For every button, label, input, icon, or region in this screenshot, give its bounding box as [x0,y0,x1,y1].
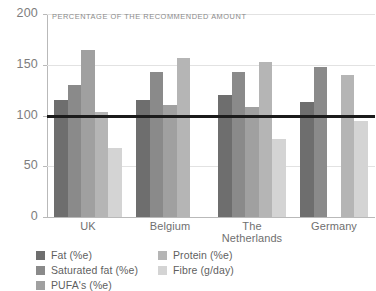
legend-label: PUFA's (%e) [51,279,112,291]
bar [54,100,68,217]
bar [81,50,95,217]
bar [341,75,355,217]
legend-swatch [158,266,167,275]
chart-legend: Fat (%e)Saturated fat (%e)PUFA's (%e)Pro… [36,249,286,291]
bar [232,72,246,217]
y-axis-tick-label: 100 [2,108,38,122]
bar [218,95,232,217]
legend-swatch [158,251,167,260]
y-axis-tick-label: 50 [2,158,38,172]
legend-item: Fibre (g/day) [158,264,234,276]
bar [177,58,191,217]
bar [163,105,177,217]
legend-swatch [36,266,45,275]
legend-column: Protein (%e)Fibre (g/day) [158,249,234,291]
legend-label: Saturated fat (%e) [51,264,138,276]
bar [95,112,109,217]
x-axis-label: Belgium [129,220,211,244]
bar [136,100,150,217]
bar [259,62,273,217]
y-axis-tick-label: 200 [2,6,38,20]
x-axis-label: Germany [293,220,375,244]
bar-chart: 050100150200 PERCENTAGE OF THE RECOMMEND… [0,0,376,291]
legend-label: Protein (%e) [173,249,233,261]
legend-item: Saturated fat (%e) [36,264,138,276]
legend-item: Fat (%e) [36,249,138,261]
reference-line-100 [47,115,375,118]
x-axis-labels: UKBelgiumThe NetherlandsGermany [47,220,375,244]
bar [150,72,164,217]
bar [300,102,314,217]
legend-item: PUFA's (%e) [36,279,138,291]
y-axis-tick-label: 150 [2,57,38,71]
bar [108,148,122,217]
x-axis-label: The Netherlands [211,220,293,244]
legend-swatch [36,251,45,260]
legend-label: Fat (%e) [51,249,92,261]
bar [245,107,259,217]
bar [354,121,368,217]
bar [68,85,82,217]
legend-label: Fibre (g/day) [173,264,234,276]
legend-swatch [36,281,45,290]
legend-column: Fat (%e)Saturated fat (%e)PUFA's (%e) [36,249,138,291]
x-axis-line [47,217,375,218]
y-axis-tick-label: 0 [2,209,38,223]
bar [314,67,328,217]
bar [272,139,286,217]
x-axis-label: UK [47,220,129,244]
legend-item: Protein (%e) [158,249,234,261]
